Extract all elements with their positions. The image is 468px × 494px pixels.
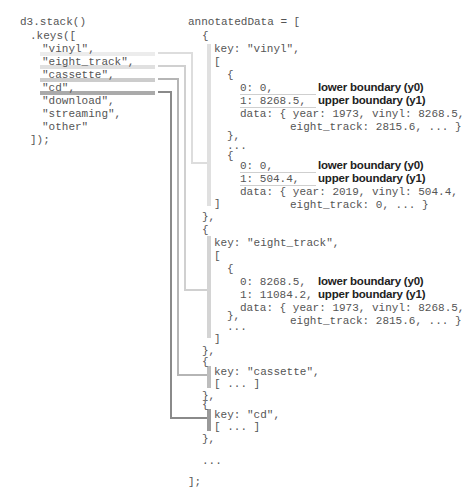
eight-track-item1-data1: data: { year: 1973, vinyl: 8268.5,: [240, 302, 464, 315]
annotated-data-footer: ];: [188, 476, 201, 489]
bar-eight-track: [207, 236, 211, 338]
connector-cassette-h1: [158, 78, 179, 80]
annotation-lower-boundary-2: lower boundary (y0): [318, 159, 423, 172]
eight-track-item1-data2: eight_track: 2815.6, ... }: [290, 315, 462, 328]
vinyl-item1-data1: data: { year: 1973, vinyl: 8268.5,: [240, 108, 464, 121]
keys-call: .keys([: [30, 30, 76, 43]
annotation-lower-boundary-3: lower boundary (y0): [318, 275, 423, 288]
vinyl-key-line: key: "vinyl",: [214, 43, 300, 56]
eight-track-open-bracket: [: [214, 250, 221, 263]
annotation-upper-boundary-3: upper boundary (y1): [318, 288, 425, 301]
key-other: "other": [42, 121, 88, 134]
vinyl-close-brace: },: [202, 211, 215, 224]
eight-track-ellipsis: ...: [227, 321, 247, 334]
vinyl-item1-open: {: [227, 69, 234, 82]
annotation-lower-boundary: lower boundary (y0): [318, 81, 423, 94]
vinyl-close-bracket: ]: [214, 198, 221, 211]
cd-close-brace: },: [202, 433, 215, 446]
annotation-upper-boundary-2: upper boundary (y1): [318, 172, 425, 185]
cassette-body: [ ... ]: [214, 378, 260, 391]
vinyl-item1-data2: eight_track: 2815.6, ... }: [290, 121, 462, 134]
vinyl-item2-data1: data: { year: 2019, vinyl: 504.4,: [240, 186, 458, 199]
bar-vinyl: [207, 44, 211, 206]
connector-cd-v: [170, 91, 172, 419]
bar-cd: [207, 409, 211, 431]
trailing-ellipsis: ...: [202, 455, 222, 468]
annotation-upper-boundary: upper boundary (y1): [318, 94, 425, 107]
connector-vinyl-h1: [158, 52, 193, 54]
vinyl-open-bracket: [: [214, 56, 221, 69]
cd-body: [ ... ]: [214, 421, 260, 434]
connector-cd-h2: [170, 417, 209, 419]
stack-call: d3.stack(): [20, 16, 86, 29]
connector-cassette-v: [177, 78, 179, 376]
keys-close: ]);: [30, 134, 50, 147]
connector-eight-track-v: [184, 65, 186, 291]
vinyl-item2-data2: eight_track: 0, ... }: [290, 199, 429, 212]
key-vinyl: "vinyl",: [42, 43, 95, 56]
cassette-open-brace: {: [202, 356, 209, 369]
key-cd: "cd",: [42, 82, 75, 95]
bar-cassette: [207, 366, 211, 388]
key-eight-track: "eight_track",: [42, 56, 134, 69]
connector-cassette-h2: [177, 374, 209, 376]
eight-track-item1-open: {: [227, 263, 234, 276]
open-brace: {: [202, 30, 209, 43]
vinyl-item2-open: {: [227, 150, 234, 163]
connector-eight-track-h1: [158, 65, 186, 67]
annotated-data-header: annotatedData = [: [188, 16, 300, 29]
cd-open-brace: {: [202, 399, 209, 412]
key-cassette: "cassette",: [42, 69, 115, 82]
eight-track-item1-y1: 1: 11084.2,: [240, 289, 313, 302]
key-download: "download",: [42, 95, 115, 108]
eight-track-item1-y0: 0: 8268.5,: [240, 276, 306, 289]
eight-track-open-brace: {: [202, 224, 209, 237]
key-streaming: "streaming",: [42, 108, 121, 121]
connector-eight-track-h2: [184, 289, 209, 291]
eight-track-key-line: key: "eight_track",: [214, 237, 339, 250]
connector-vinyl-v: [191, 52, 193, 164]
